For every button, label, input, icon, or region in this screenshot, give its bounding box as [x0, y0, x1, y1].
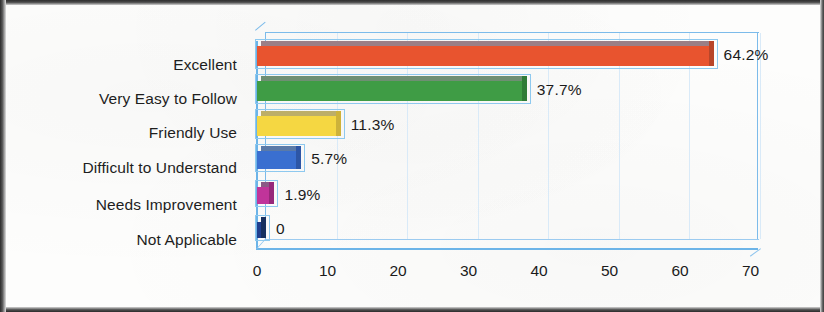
- bar-top-face: [261, 41, 714, 46]
- data-label-not-applicable: 0: [276, 220, 285, 238]
- bar-end-cap: [522, 76, 527, 101]
- category-label-difficult-to-understand: Difficult to Understand: [0, 159, 237, 177]
- x-tick-30: 30: [460, 262, 477, 280]
- data-label-friendly-use: 11.3%: [351, 116, 395, 134]
- plot-floor-back-edge: [265, 239, 759, 240]
- bar-friendly-use[interactable]: [257, 116, 337, 136]
- bar-needs-improvement[interactable]: [257, 187, 270, 204]
- category-label-needs-improvement: Needs Improvement: [0, 196, 237, 214]
- bar-end-cap: [296, 146, 301, 169]
- category-label-very-easy-to-follow: Very Easy to Follow: [0, 90, 237, 108]
- bar-chart: Excellent Very Easy to Follow Friendly U…: [0, 0, 824, 312]
- bar-front-face: [257, 151, 297, 169]
- data-label-excellent: 64.2%: [724, 46, 769, 64]
- category-label-excellent: Excellent: [0, 56, 237, 74]
- plot-floor-right-edge: [745, 242, 761, 257]
- bar-top-face: [261, 146, 301, 151]
- bar-end-cap: [261, 217, 266, 238]
- bar-difficult-to-understand[interactable]: [257, 151, 297, 169]
- bar-top-face: [261, 76, 527, 81]
- data-label-difficult-to-understand: 5.7%: [311, 150, 347, 168]
- data-label-needs-improvement: 1.9%: [284, 186, 320, 204]
- bar-front-face: [257, 46, 710, 66]
- bar-very-easy-to-follow[interactable]: [257, 81, 523, 101]
- bar-top-face: [261, 111, 341, 116]
- bar-front-face: [257, 187, 270, 204]
- x-tick-40: 40: [530, 262, 547, 280]
- category-label-not-applicable: Not Applicable: [0, 231, 237, 249]
- bar-front-face: [257, 116, 337, 136]
- bar-end-cap: [709, 41, 714, 66]
- y-axis-line: [256, 41, 258, 249]
- x-tick-50: 50: [601, 262, 618, 280]
- x-tick-60: 60: [671, 262, 688, 280]
- bar-excellent[interactable]: [257, 46, 710, 66]
- bar-front-face: [257, 81, 523, 101]
- bar-not-applicable[interactable]: [257, 222, 262, 238]
- data-label-very-easy-to-follow: 37.7%: [537, 81, 582, 99]
- category-label-friendly-use: Friendly Use: [0, 124, 237, 142]
- x-tick-0: 0: [253, 262, 262, 280]
- bar-end-cap: [269, 182, 274, 204]
- x-tick-70: 70: [742, 262, 759, 280]
- x-axis-line: [256, 248, 758, 250]
- x-tick-20: 20: [389, 262, 406, 280]
- x-tick-10: 10: [319, 262, 336, 280]
- bar-end-cap: [336, 111, 341, 136]
